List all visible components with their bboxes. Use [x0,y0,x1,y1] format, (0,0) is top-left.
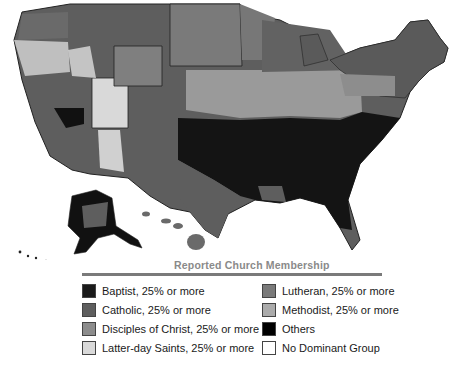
wyoming [114,46,162,86]
legend-column-right: Lutheran, 25% or more Methodist, 25% or … [262,281,399,357]
legend-item-disciples: Disciples of Christ, 25% or more [82,319,259,338]
legend-item-no-dominant: No Dominant Group [262,338,399,357]
washington-patches [18,12,68,40]
legend-label: Catholic, 25% or more [102,304,211,316]
dakotas-lutheran [170,4,242,66]
legend-item-baptist: Baptist, 25% or more [82,281,259,300]
legend-item-methodist: Methodist, 25% or more [262,300,399,319]
legend-label: Disciples of Christ, 25% or more [102,323,259,335]
church-membership-map [0,0,472,260]
legend-item-catholic: Catholic, 25% or more [82,300,259,319]
swatch-others [262,322,276,336]
arizona-lds [98,130,124,172]
swatch-baptist [82,284,96,298]
legend-label: Lutheran, 25% or more [282,285,395,297]
swatch-catholic [82,303,96,317]
legend-divider [82,273,382,276]
legend-label: Others [282,323,315,335]
legend-label: Latter-day Saints, 25% or more [102,342,254,354]
legend-column-left: Baptist, 25% or more Catholic, 25% or mo… [82,281,259,357]
legend-label: Methodist, 25% or more [282,304,399,316]
legend-item-lutheran: Lutheran, 25% or more [262,281,399,300]
aleutian-islands [19,251,58,260]
swatch-disciples [82,322,96,336]
swatch-no-dominant [262,341,276,355]
legend-item-others: Others [262,319,399,338]
legend-label: No Dominant Group [282,342,380,354]
swatch-lutheran [262,284,276,298]
louisiana-catholic [258,186,286,202]
legend-title: Reported Church Membership [174,259,330,271]
swatch-lds [82,341,96,355]
legend-label: Baptist, 25% or more [102,285,205,297]
swatch-methodist [262,303,276,317]
legend-item-lds: Latter-day Saints, 25% or more [82,338,259,357]
midwest-methodist-belt [186,70,362,118]
alaska-catholic [82,202,108,228]
pennsylvania-mixed [340,74,395,96]
